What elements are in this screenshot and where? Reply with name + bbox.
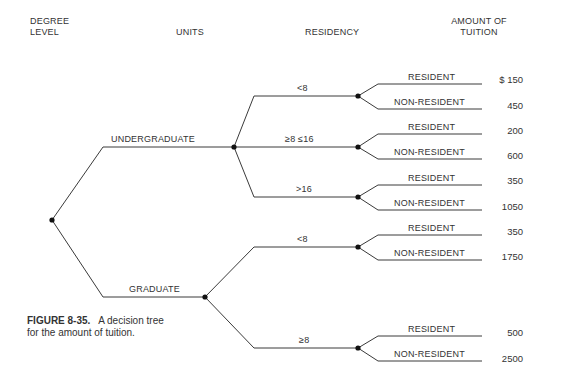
residency-label: NON-RESIDENT (394, 147, 465, 157)
figure-caption: FIGURE 8-35. A decision tree for the amo… (27, 315, 177, 339)
tuition-amount: 200 (483, 125, 523, 136)
residency-label: RESIDENT (408, 173, 455, 183)
units-label-ug-8to16: ≥8 ≤16 (285, 134, 314, 144)
units-label-ug-gt16: >16 (296, 184, 312, 194)
tuition-amount: $ 150 (483, 74, 523, 85)
residency-label: RESIDENT (408, 324, 455, 334)
edge-gr-lt8 (205, 247, 358, 297)
residency-label: RESIDENT (408, 223, 455, 233)
tuition-amount: 500 (483, 327, 523, 338)
tuition-amount: 350 (483, 175, 523, 186)
edge-undergraduate (52, 147, 234, 220)
tuition-amount: 600 (483, 150, 523, 161)
root-node (49, 217, 54, 222)
graduate-node (202, 294, 207, 299)
residency-label: NON-RESIDENT (394, 349, 465, 359)
residency-label: NON-RESIDENT (394, 248, 465, 258)
degree-label-undergraduate: UNDERGRADUATE (111, 134, 195, 144)
edge-gr-ge8 (205, 297, 358, 348)
residency-label: NON-RESIDENT (394, 97, 465, 107)
residency-label: RESIDENT (408, 122, 455, 132)
tuition-amount: 2500 (483, 353, 523, 364)
residency-label: RESIDENT (408, 72, 455, 82)
tuition-amount: 350 (483, 226, 523, 237)
tuition-amount: 450 (483, 100, 523, 111)
degree-label-graduate: GRADUATE (129, 284, 180, 294)
residency-label: NON-RESIDENT (394, 198, 465, 208)
figure-label: FIGURE 8-35. (27, 315, 90, 326)
undergraduate-node (231, 144, 236, 149)
units-label-gr-lt8: <8 (297, 234, 308, 244)
tuition-amount: 1050 (483, 201, 523, 212)
units-label-gr-ge8: ≥8 (299, 335, 309, 345)
units-label-ug-lt8: <8 (297, 83, 308, 93)
tuition-amount: 1750 (483, 251, 523, 262)
